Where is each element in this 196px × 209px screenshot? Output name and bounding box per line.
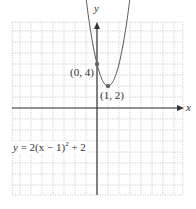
y-axis-arrow-icon: [94, 22, 100, 29]
axes: [12, 0, 184, 195]
data-point: [95, 62, 99, 66]
equation-tail: + 2: [69, 141, 86, 153]
equation-body: = 2(x − 1): [18, 141, 65, 153]
point-label-y-intercept: (0, 4): [70, 67, 94, 78]
graph-plot: [0, 0, 196, 209]
y-axis-label: y: [94, 3, 99, 14]
data-point: [106, 84, 110, 88]
point-label-vertex: (1, 2): [100, 90, 124, 101]
equation-label: y = 2(x − 1)2 + 2: [12, 141, 87, 153]
x-axis-label: x: [186, 102, 191, 113]
